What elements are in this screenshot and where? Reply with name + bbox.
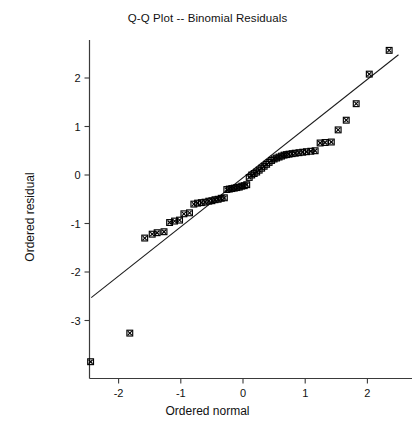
data-point-marker <box>386 47 392 53</box>
data-point-marker <box>181 211 187 217</box>
qq-plot-figure: Q-Q Plot -- Binomial Residuals -2-1012 2… <box>0 0 415 441</box>
y-tick-label: 1 <box>74 121 80 133</box>
x-tick-label: 2 <box>364 387 370 399</box>
data-point-marker <box>343 117 349 123</box>
x-tick-label: -1 <box>176 387 186 399</box>
data-point-marker <box>88 359 94 365</box>
plot-canvas: -2-1012 210-1-2-3 <box>0 0 415 441</box>
x-axis-ticks: -2-1012 <box>114 379 371 399</box>
data-point-marker <box>142 235 148 241</box>
data-point-marker <box>328 139 334 145</box>
y-axis-label: Ordered residual <box>23 117 37 317</box>
reference-line <box>91 55 398 298</box>
identity-reference-line <box>91 55 398 298</box>
x-tick-label: -2 <box>114 387 124 399</box>
y-tick-label: -2 <box>71 266 81 278</box>
axes-group <box>90 40 413 379</box>
x-tick-label: 1 <box>302 387 308 399</box>
data-point-marker <box>127 330 133 336</box>
y-tick-label: 0 <box>74 169 80 181</box>
data-points <box>88 47 392 364</box>
data-point-marker <box>187 210 193 216</box>
data-point-marker <box>335 127 341 133</box>
y-tick-label: -3 <box>71 315 81 327</box>
data-point-marker <box>161 229 167 235</box>
y-axis-ticks: 210-1-2-3 <box>71 72 90 327</box>
data-point-marker <box>353 101 359 107</box>
y-tick-label: -1 <box>71 218 81 230</box>
x-tick-label: 0 <box>240 387 246 399</box>
x-axis-label: Ordered normal <box>0 404 415 418</box>
y-tick-label: 2 <box>74 72 80 84</box>
